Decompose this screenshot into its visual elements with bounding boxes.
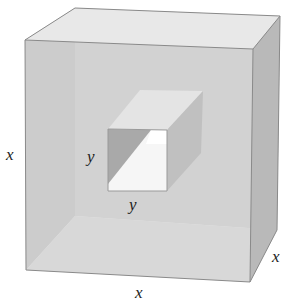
label-cube-depth: x	[271, 247, 280, 266]
cube-right-face	[250, 16, 280, 282]
label-cube-width: x	[134, 283, 143, 301]
cube-diagram: x x x y y	[0, 0, 288, 301]
label-hole-height: y	[85, 147, 95, 166]
label-hole-width: y	[127, 195, 137, 214]
label-cube-height: x	[5, 145, 14, 164]
